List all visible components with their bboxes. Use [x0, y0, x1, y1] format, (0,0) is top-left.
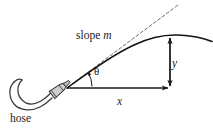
hose-tube	[10, 79, 52, 110]
slope-variable: m	[103, 29, 111, 41]
vertical-height-label: y	[172, 58, 177, 70]
launch-angle-label: θ	[94, 66, 99, 77]
projectile-hose-diagram: slope m θ x y hose	[0, 0, 213, 133]
hose-label: hose	[10, 113, 31, 125]
water-trajectory-curve	[67, 35, 212, 88]
horizontal-distance-label: x	[117, 96, 122, 108]
slope-word: slope	[76, 29, 103, 41]
diagram-canvas	[0, 0, 213, 133]
slope-tangent-label: slope m	[76, 30, 111, 42]
